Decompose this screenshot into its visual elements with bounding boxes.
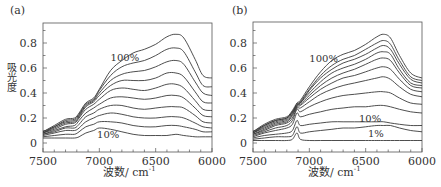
x-axis-label-b: 波数/ cm-1	[308, 163, 361, 179]
x-tick-label: 6000	[408, 155, 436, 168]
series-line-70pct	[253, 52, 422, 133]
series-line-40pct	[253, 77, 422, 135]
y-tick-label: 0	[30, 137, 37, 150]
y-tick-label: 0.2	[20, 112, 38, 125]
y-tick-label: 0.8	[20, 37, 38, 50]
x-tick-label: 7500	[29, 155, 57, 168]
x-axis-label-sup: -1	[354, 165, 361, 173]
y-tick-label: 0.6	[20, 62, 38, 75]
y-tick-label: 0.4	[20, 87, 38, 100]
series-line-10pct	[43, 128, 212, 138]
y-tick-label: 0.8	[230, 37, 248, 50]
x-axis-label-text: 波数/ cm	[103, 166, 149, 179]
series-line-10pct	[253, 120, 422, 138]
annotation-label: 10%	[359, 113, 381, 124]
y-tick-label: 0.4	[230, 87, 248, 100]
plot-area-a: 750070006500600000.20.40.60.8100%10%	[0, 0, 220, 187]
series-line-100pct	[253, 34, 422, 132]
y-tick-label: 0.6	[230, 62, 248, 75]
annotation-label: 100%	[309, 53, 338, 64]
y-tick-label: 0	[240, 137, 247, 150]
x-axis-label-text: 波数/ cm	[308, 166, 354, 179]
panel-a: (a) 吸光度 750070006500600000.20.40.60.8100…	[0, 0, 220, 187]
panel-b: (b) 750070006500600000.20.40.60.8100%10%…	[220, 0, 441, 187]
annotation-label: 10%	[97, 129, 119, 140]
x-axis-label-sup: -1	[149, 165, 156, 173]
annotation-label: 1%	[368, 128, 384, 139]
y-tick-label: 0.2	[230, 112, 248, 125]
annotation-label: 100%	[111, 52, 140, 63]
series-line-100pct	[43, 34, 212, 132]
x-axis-label-a: 波数/ cm-1	[103, 163, 156, 179]
x-tick-label: 7500	[239, 155, 267, 168]
series-line-50pct	[43, 95, 212, 134]
series-line-60pct	[43, 84, 212, 133]
plot-area-b: 750070006500600000.20.40.60.8100%10%1%	[220, 0, 441, 187]
